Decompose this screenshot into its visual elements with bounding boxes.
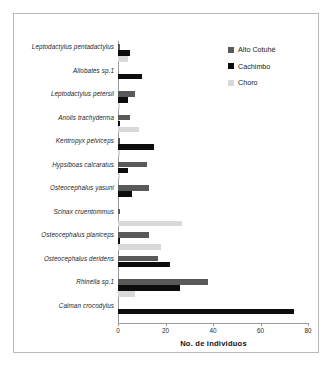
category-label: Leptodactylus petersii — [51, 90, 114, 97]
category-label: Hypsiboas calcaratus — [52, 161, 114, 168]
x-tick-label: 20 — [162, 327, 169, 334]
category-label: Rhinella sp.1 — [76, 278, 114, 285]
bar-alto-cotuh- — [118, 138, 120, 143]
bar-alto-cotuh- — [118, 279, 208, 284]
x-tick — [261, 323, 262, 326]
bar-alto-cotuh- — [118, 162, 147, 167]
category-label: Leptodactylus pentadactylus — [32, 43, 114, 50]
category-label: Anolis trachyderma — [58, 114, 114, 121]
bar-choro — [118, 291, 135, 296]
bar-alto-cotuh- — [118, 232, 149, 237]
category-label: Allobates sp.1 — [73, 67, 114, 74]
bar-choro — [118, 56, 128, 61]
bar-choro — [118, 174, 120, 179]
x-tick — [118, 323, 119, 326]
category-label: Kentropyx pelviceps — [56, 137, 114, 144]
bar-alto-cotuh- — [118, 91, 135, 96]
bar-alto-cotuh- — [118, 185, 149, 190]
bar-group: Osteocephalus planiceps — [118, 229, 308, 253]
bar-group: Caiman crocodylus — [118, 300, 308, 324]
bar-group: Kentropyx pelviceps — [118, 135, 308, 159]
bar-cachimbo — [118, 309, 294, 314]
bar-group: Osteocephalus yasuni — [118, 182, 308, 206]
x-tick-label: 0 — [116, 327, 120, 334]
bar-cachimbo — [118, 74, 142, 79]
x-tick — [166, 323, 167, 326]
legend-item[interactable]: Alto Cotuhé — [228, 45, 276, 54]
bar-group: Osteocephalus deridens — [118, 253, 308, 277]
bar-alto-cotuh- — [118, 256, 158, 261]
x-tick — [213, 323, 214, 326]
bar-group: Allobates sp.1 — [118, 65, 308, 89]
bar-choro — [118, 103, 120, 108]
bar-cachimbo — [118, 97, 128, 102]
x-tick-label: 60 — [257, 327, 264, 334]
x-tick — [308, 323, 309, 326]
bar-choro — [118, 150, 120, 155]
figure-frame: Leptodactylus pentadactylusAllobates sp.… — [13, 13, 319, 353]
bar-group: Anolis trachyderma — [118, 112, 308, 136]
legend-label: Alto Cotuhé — [238, 45, 276, 54]
bar-group: Hypsiboas calcaratus — [118, 159, 308, 183]
bar-cachimbo — [118, 285, 180, 290]
bar-group: Leptodactylus pentadactylus — [118, 41, 308, 65]
category-label: Osteocephalus yasuni — [50, 184, 114, 191]
bar-cachimbo — [118, 121, 120, 126]
category-label: Caiman crocodylus — [59, 302, 114, 309]
legend-label: Cachimbo — [238, 62, 270, 71]
x-axis-title: No. de individuos — [118, 339, 309, 348]
x-tick-label: 80 — [304, 327, 311, 334]
legend-swatch-icon — [228, 63, 234, 69]
plot-area: Leptodactylus pentadactylusAllobates sp.… — [118, 41, 308, 323]
x-tick-label: 40 — [209, 327, 216, 334]
legend-swatch-icon — [228, 47, 234, 53]
bar-choro — [118, 244, 161, 249]
category-label: Osteocephalus planiceps — [41, 231, 114, 238]
bar-cachimbo — [118, 168, 128, 173]
chart-legend: Alto CotuhéCachimboChoro — [228, 45, 276, 95]
bar-group: Leptodactylus petersii — [118, 88, 308, 112]
bar-cachimbo — [118, 262, 170, 267]
legend-item[interactable]: Choro — [228, 78, 276, 87]
bar-group: Scinax cruentommus — [118, 206, 308, 230]
bar-cachimbo — [118, 144, 154, 149]
legend-label: Choro — [238, 78, 258, 87]
bar-choro — [118, 221, 182, 226]
bar-group: Rhinella sp.1 — [118, 276, 308, 300]
bar-alto-cotuh- — [118, 115, 130, 120]
bar-cachimbo — [118, 50, 130, 55]
bar-alto-cotuh- — [118, 209, 120, 214]
bar-alto-cotuh- — [118, 44, 120, 49]
bar-cachimbo — [118, 191, 132, 196]
legend-swatch-icon — [228, 80, 234, 86]
category-label: Osteocephalus deridens — [44, 255, 114, 262]
bar-cachimbo — [118, 238, 120, 243]
bar-choro — [118, 127, 139, 132]
category-label: Scinax cruentommus — [53, 208, 114, 215]
legend-item[interactable]: Cachimbo — [228, 62, 276, 71]
